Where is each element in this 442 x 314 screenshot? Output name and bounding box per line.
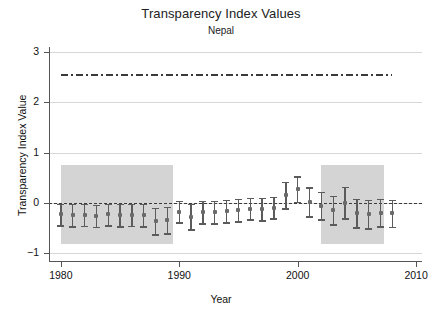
error-bar-cap-upper xyxy=(81,204,88,205)
gridline xyxy=(49,52,422,53)
error-bar-cap-lower xyxy=(365,228,372,229)
error-bar-cap-upper xyxy=(259,198,266,199)
error-bar-cap-upper xyxy=(389,200,396,201)
error-bar-cap-lower xyxy=(81,226,88,227)
chart-subtitle: Nepal xyxy=(0,25,442,36)
x-axis-tick xyxy=(179,262,180,267)
x-axis-tick xyxy=(416,262,417,267)
data-marker xyxy=(177,210,181,214)
gridline xyxy=(49,102,422,103)
data-marker xyxy=(319,204,323,208)
error-bar-cap-lower xyxy=(93,227,100,228)
y-axis xyxy=(49,47,50,261)
error-bar-cap-lower xyxy=(294,202,301,203)
data-marker xyxy=(272,206,276,210)
page-title: Transparency Index Values xyxy=(0,6,442,21)
error-bar-cap-lower xyxy=(235,221,242,222)
error-bar-cap-upper xyxy=(211,201,218,202)
error-bar-cap-upper xyxy=(188,204,195,205)
error-bar-cap-lower xyxy=(247,219,254,220)
x-axis-tick-label: 2000 xyxy=(276,269,320,281)
reference-line-segment xyxy=(61,74,393,76)
error-bar-cap-upper xyxy=(140,204,147,205)
gridline xyxy=(49,253,422,254)
y-axis-tick-label: −1 xyxy=(1,246,39,258)
x-axis-tick-label: 2010 xyxy=(394,269,438,281)
error-bar-cap-upper xyxy=(117,204,124,205)
error-bar-cap-upper xyxy=(199,201,206,202)
error-bar-cap-upper xyxy=(342,187,349,188)
x-axis-tick-label: 1980 xyxy=(39,269,83,281)
data-marker xyxy=(142,213,146,217)
y-axis-tick-label: 1 xyxy=(1,146,39,158)
data-marker xyxy=(331,208,335,212)
error-bar-cap-upper xyxy=(152,208,159,209)
error-bar-cap-lower xyxy=(105,225,112,226)
error-bar-cap-lower xyxy=(318,219,325,220)
error-bar-cap-lower xyxy=(164,233,171,234)
error-bar-cap-lower xyxy=(199,223,206,224)
y-axis-tick-label: 3 xyxy=(1,45,39,57)
error-bar-cap-upper xyxy=(57,204,64,205)
data-marker xyxy=(379,211,383,215)
data-marker xyxy=(94,214,98,218)
error-bar-cap-upper xyxy=(365,200,372,201)
chart-figure: Transparency Index Values Nepal Transpar… xyxy=(0,0,442,314)
error-bar-cap-lower xyxy=(353,227,360,228)
error-bar-cap-upper xyxy=(294,176,301,177)
error-bar-cap-lower xyxy=(69,226,76,227)
y-axis-tick-label: 2 xyxy=(1,95,39,107)
data-marker xyxy=(165,218,169,222)
error-bar-cap-upper xyxy=(306,187,313,188)
x-axis-label: Year xyxy=(0,293,442,305)
error-bar-cap-lower xyxy=(211,223,218,224)
error-bar-cap-lower xyxy=(306,216,313,217)
error-bar-cap-lower xyxy=(152,234,159,235)
y-axis-tick-label: 0 xyxy=(1,196,39,208)
data-marker xyxy=(59,212,63,216)
data-marker xyxy=(296,187,300,191)
data-marker xyxy=(201,210,205,214)
error-bar-cap-lower xyxy=(57,225,64,226)
error-bar-cap-upper xyxy=(377,199,384,200)
data-marker xyxy=(260,207,264,211)
data-marker xyxy=(118,213,122,217)
data-marker xyxy=(106,212,110,216)
error-bar-cap-upper xyxy=(164,207,171,208)
x-axis-tick xyxy=(61,262,62,267)
error-bar-cap-upper xyxy=(223,200,230,201)
error-bar-cap-upper xyxy=(93,205,100,206)
x-axis xyxy=(49,261,422,262)
error-bar-cap-upper xyxy=(176,201,183,202)
error-bar-cap-upper xyxy=(330,196,337,197)
data-marker xyxy=(225,209,229,213)
error-bar-cap-lower xyxy=(342,218,349,219)
data-marker xyxy=(248,207,252,211)
error-bar-cap-lower xyxy=(377,226,384,227)
data-marker xyxy=(154,219,158,223)
error-bar-cap-lower xyxy=(117,226,124,227)
error-bar-cap-upper xyxy=(105,204,112,205)
data-marker xyxy=(213,210,217,214)
data-marker xyxy=(71,213,75,217)
y-axis-tick xyxy=(44,153,49,154)
data-marker xyxy=(343,201,347,205)
error-bar-cap-upper xyxy=(318,192,325,193)
error-bar-cap-upper xyxy=(247,198,254,199)
error-bar-cap-lower xyxy=(140,226,147,227)
data-marker xyxy=(130,213,134,217)
error-bar-cap-lower xyxy=(389,227,396,228)
data-marker xyxy=(189,215,193,219)
data-marker xyxy=(83,213,87,217)
gridline xyxy=(49,153,422,154)
error-bar-cap-lower xyxy=(270,218,277,219)
data-marker xyxy=(284,193,288,197)
error-bar-cap-lower xyxy=(188,229,195,230)
error-bar-cap-lower xyxy=(282,208,289,209)
y-axis-tick xyxy=(44,102,49,103)
x-axis-tick-label: 1990 xyxy=(157,269,201,281)
error-bar-cap-upper xyxy=(282,182,289,183)
shaded-region xyxy=(321,165,384,245)
error-bar-cap-upper xyxy=(128,204,135,205)
error-bar-cap-upper xyxy=(235,199,242,200)
